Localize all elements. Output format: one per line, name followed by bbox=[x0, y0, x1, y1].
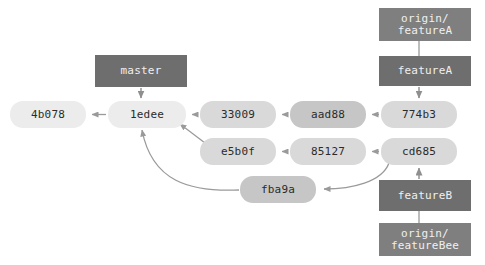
commit-label: 4b078 bbox=[31, 108, 65, 121]
commit-label: 774b3 bbox=[402, 108, 436, 121]
branch-label-text: featureB bbox=[398, 190, 453, 202]
commit-node-aad88[interactable]: aad88 bbox=[290, 101, 366, 128]
branch-label-master[interactable]: master bbox=[95, 55, 187, 87]
git-commit-graph: 4b078 1edee 33009 aad88 774b3 e5b0f 8512… bbox=[0, 0, 485, 265]
branch-label-text: featureA bbox=[398, 65, 453, 77]
commit-label: 33009 bbox=[221, 108, 255, 121]
commit-node-33009[interactable]: 33009 bbox=[200, 101, 276, 128]
commit-node-1edee[interactable]: 1edee bbox=[108, 101, 186, 128]
branch-label-text: master bbox=[121, 65, 162, 77]
commit-node-fba9a[interactable]: fba9a bbox=[240, 176, 316, 203]
commit-label: fba9a bbox=[261, 183, 295, 196]
commit-node-774b3[interactable]: 774b3 bbox=[381, 101, 457, 128]
remote-label-origin-featureA[interactable]: origin/ featureA bbox=[379, 8, 471, 41]
commit-label: aad88 bbox=[311, 108, 345, 121]
branch-label-featureA[interactable]: featureA bbox=[379, 56, 471, 86]
commit-node-cd685[interactable]: cd685 bbox=[381, 138, 457, 165]
commit-label: 1edee bbox=[130, 108, 164, 121]
remote-label-origin-featureBee[interactable]: origin/ featureBee bbox=[379, 223, 471, 256]
commit-node-e5b0f[interactable]: e5b0f bbox=[200, 138, 276, 165]
commit-node-4b078[interactable]: 4b078 bbox=[10, 101, 86, 128]
branch-label-featureB[interactable]: featureB bbox=[379, 180, 471, 211]
edge-e5b0f-1edee bbox=[180, 124, 205, 143]
remote-label-text: origin/ featureA bbox=[398, 13, 453, 37]
remote-label-text: origin/ featureBee bbox=[391, 228, 459, 252]
commit-label: 85127 bbox=[311, 145, 345, 158]
commit-label: cd685 bbox=[402, 145, 436, 158]
commit-label: e5b0f bbox=[221, 145, 255, 158]
commit-node-85127[interactable]: 85127 bbox=[290, 138, 366, 165]
